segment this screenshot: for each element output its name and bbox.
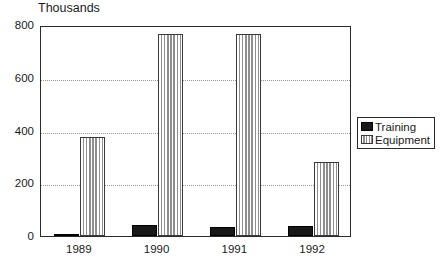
plot-area [40, 26, 351, 237]
chart-legend: TrainingEquipment [357, 117, 435, 149]
x-tick-label: 1989 [66, 243, 92, 256]
legend-item-training: Training [361, 120, 431, 133]
bar-equipment-1990 [158, 34, 183, 236]
legend-item-equipment: Equipment [361, 133, 431, 146]
y-tick-label: 400 [15, 126, 34, 138]
y-tick-label: 600 [15, 73, 34, 85]
y-tick-label: 200 [15, 179, 34, 191]
x-tick-label: 1992 [299, 243, 325, 256]
bar-chart: Thousands 0200400600800 1989199019911992… [0, 0, 445, 271]
legend-label: Equipment [375, 134, 430, 146]
x-tick-label: 1990 [144, 243, 170, 256]
x-tick-label: 1991 [222, 243, 248, 256]
y-tick-label: 800 [15, 20, 34, 32]
bar-equipment-1992 [314, 162, 339, 236]
bar-equipment-1991 [236, 34, 261, 236]
bars-layer [41, 27, 350, 236]
bar-equipment-1989 [80, 137, 105, 236]
legend-swatch-training-icon [361, 122, 373, 131]
bar-training-1990 [132, 225, 157, 236]
legend-label: Training [375, 121, 416, 133]
bar-training-1989 [54, 234, 79, 236]
bar-training-1992 [288, 226, 313, 236]
chart-title: Thousands [38, 1, 100, 15]
legend-swatch-equipment-icon [361, 135, 373, 144]
y-tick-label: 0 [28, 231, 34, 243]
y-axis: 0200400600800 [0, 26, 34, 237]
bar-training-1991 [210, 227, 235, 236]
x-axis: 1989199019911992 [40, 243, 351, 261]
